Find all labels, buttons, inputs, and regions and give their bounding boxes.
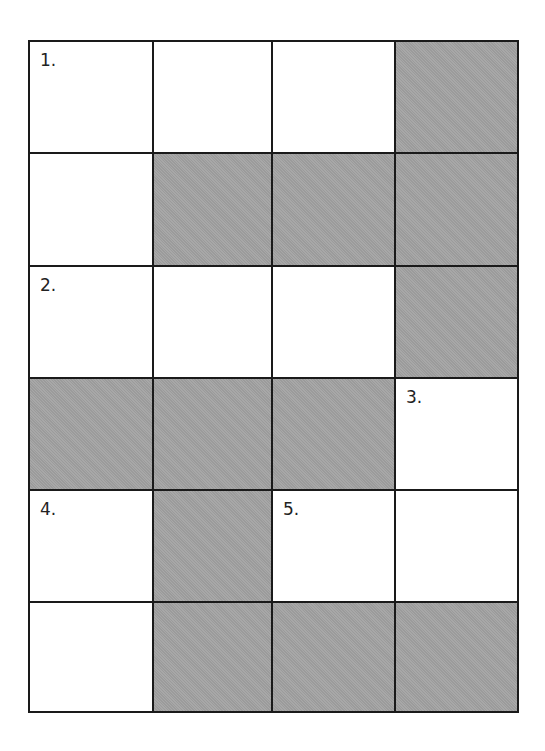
blocked-cell: [154, 154, 273, 267]
blocked-cell: [273, 154, 396, 267]
answer-cell[interactable]: [154, 42, 273, 154]
answer-cell[interactable]: 2.: [30, 267, 154, 379]
answer-cell[interactable]: [30, 603, 154, 711]
blocked-cell: [154, 379, 273, 491]
clue-number: 2.: [40, 277, 56, 294]
answer-cell[interactable]: [396, 491, 517, 603]
crossword-grid: 1.2.3.4.5.: [28, 40, 519, 713]
answer-cell[interactable]: 3.: [396, 379, 517, 491]
blocked-cell: [273, 603, 396, 711]
answer-cell[interactable]: [273, 42, 396, 154]
blocked-cell: [30, 379, 154, 491]
blocked-cell: [154, 491, 273, 603]
blocked-cell: [396, 154, 517, 267]
clue-number: 3.: [406, 389, 422, 406]
blocked-cell: [396, 42, 517, 154]
blocked-cell: [396, 603, 517, 711]
blocked-cell: [154, 603, 273, 711]
answer-cell[interactable]: 4.: [30, 491, 154, 603]
blocked-cell: [396, 267, 517, 379]
answer-cell[interactable]: [273, 267, 396, 379]
blocked-cell: [273, 379, 396, 491]
clue-number: 5.: [283, 501, 299, 518]
clue-number: 4.: [40, 501, 56, 518]
answer-cell[interactable]: 5.: [273, 491, 396, 603]
answer-cell[interactable]: [154, 267, 273, 379]
clue-number: 1.: [40, 52, 56, 69]
answer-cell[interactable]: [30, 154, 154, 267]
answer-cell[interactable]: 1.: [30, 42, 154, 154]
